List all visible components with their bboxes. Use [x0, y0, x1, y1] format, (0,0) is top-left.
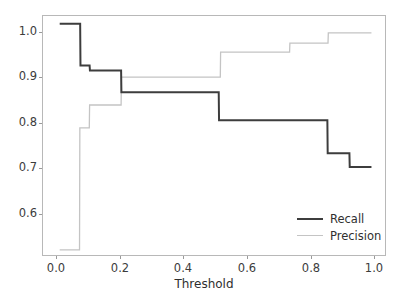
ytick-label-0.7: 0.7 [19, 162, 37, 173]
xtick-mark-0.4 [183, 256, 184, 259]
legend-item-precision[interactable]: Precision [297, 227, 383, 244]
ytick-mark-0.9 [39, 77, 42, 78]
xtick-label-0.6: 0.6 [227, 261, 267, 275]
ytick-mark-0.6 [39, 214, 42, 215]
legend-item-recall[interactable]: Recall [297, 210, 383, 227]
xtick-mark-1.0 [374, 256, 375, 259]
xtick-mark-0.2 [120, 256, 121, 259]
plot-axes-area: Recall Precision [42, 15, 386, 256]
xtick-label-0.8: 0.8 [291, 261, 331, 275]
ytick-mark-0.8 [39, 123, 42, 124]
xtick-label-0.4: 0.4 [163, 261, 203, 275]
xtick-mark-0.8 [311, 256, 312, 259]
xtick-mark-0.6 [247, 256, 248, 259]
series-line-recall [60, 24, 372, 167]
ytick-mark-1.0 [39, 32, 42, 33]
ytick-label-0.8: 0.8 [19, 117, 37, 128]
xtick-label-0.2: 0.2 [100, 261, 140, 275]
xtick-label-0.0: 0.0 [36, 261, 76, 275]
figure-canvas: Recall Precision 1.0 0.9 0.8 0.7 0.6 0.0… [0, 0, 408, 300]
x-axis-label: Threshold [0, 277, 408, 291]
legend-label-precision: Precision [330, 229, 381, 243]
ytick-label-0.9: 0.9 [19, 71, 37, 82]
legend-swatch-precision [297, 235, 323, 236]
legend-swatch-recall [297, 218, 323, 220]
chart-legend: Recall Precision [297, 208, 383, 246]
ytick-label-1.0: 1.0 [19, 26, 37, 37]
legend-label-recall: Recall [330, 212, 364, 226]
xtick-mark-0.0 [56, 256, 57, 259]
ytick-label-0.6: 0.6 [19, 208, 37, 219]
xtick-label-1.0: 1.0 [354, 261, 394, 275]
ytick-mark-0.7 [39, 168, 42, 169]
